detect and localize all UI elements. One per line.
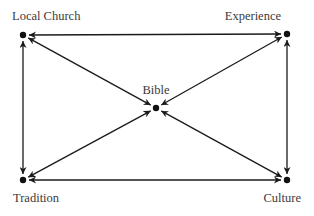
node-dot-experience <box>284 31 290 37</box>
edge-culture-bible <box>161 111 281 177</box>
node-label-tradition: Tradition <box>13 191 60 205</box>
edge-local_church-bible <box>28 38 150 105</box>
diagram-canvas: Local ChurchExperienceBibleTraditionCult… <box>0 0 314 216</box>
node-group: Local ChurchExperienceBibleTraditionCult… <box>12 9 301 205</box>
node-label-experience: Experience <box>225 9 282 23</box>
node-label-local_church: Local Church <box>12 9 81 23</box>
edge-local_church-experience <box>29 34 281 35</box>
node-dot-culture <box>284 177 290 183</box>
node-label-culture: Culture <box>264 191 302 205</box>
node-dot-local_church <box>20 32 26 38</box>
edge-experience-bible <box>161 37 282 105</box>
node-dot-bible <box>153 105 159 111</box>
node-label-bible: Bible <box>142 83 170 97</box>
node-dot-tradition <box>20 177 26 183</box>
edge-tradition-bible <box>28 111 150 177</box>
